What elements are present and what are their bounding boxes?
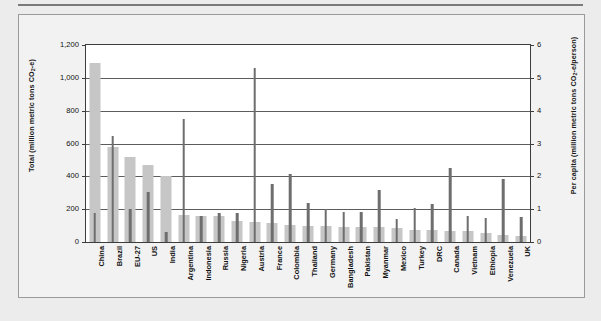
category-label: Nigeria	[239, 246, 248, 271]
category-label: UK	[523, 246, 532, 257]
right-axis-tick-mark	[530, 111, 534, 112]
top-divider-rule	[18, 4, 583, 6]
category-label: Mexico	[399, 246, 408, 271]
bar-group[interactable]	[122, 45, 140, 242]
bar-group[interactable]	[512, 45, 530, 242]
per-capita-bar[interactable]	[449, 168, 452, 242]
category-label: Colombia	[292, 246, 301, 280]
right-axis-tick-label: 5	[537, 73, 541, 82]
left-axis-tick-label: 400	[66, 171, 79, 180]
right-axis-tick-label: 3	[537, 139, 541, 148]
category-label: France	[275, 246, 284, 270]
left-axis-tick-label: 800	[66, 106, 79, 115]
bar-group[interactable]	[494, 45, 512, 242]
category-label: US	[150, 246, 159, 256]
right-axis-title: Per capita (million metric tons CO2-e/pe…	[569, 16, 578, 216]
category-label: Austria	[257, 246, 266, 271]
per-capita-bar[interactable]	[502, 179, 505, 242]
right-axis-title-suffix: -e/person)	[569, 37, 578, 73]
per-capita-bar[interactable]	[289, 174, 292, 242]
page-background: Total (million metric tons CO2-e) Per ca…	[0, 0, 601, 321]
per-capita-bar[interactable]	[147, 192, 150, 242]
category-label: Myanmar	[381, 246, 390, 278]
per-capita-bar[interactable]	[484, 218, 487, 242]
left-axis-tick-label: 600	[66, 139, 79, 148]
bar-group[interactable]	[406, 45, 424, 242]
right-axis-tick-label: 2	[537, 171, 541, 180]
category-label: EU-27	[133, 246, 142, 267]
category-label: Ethiopia	[488, 246, 497, 275]
bar-group[interactable]	[317, 45, 335, 242]
per-capita-bar[interactable]	[360, 212, 363, 242]
category-label: Pakistan	[363, 246, 372, 276]
right-axis-tick-label: 0	[537, 237, 541, 246]
left-axis-tick-mark	[82, 242, 86, 243]
per-capita-bar[interactable]	[165, 232, 168, 243]
bar-group[interactable]	[423, 45, 441, 242]
per-capita-bar[interactable]	[324, 209, 327, 242]
left-axis-title-suffix: -e)	[27, 59, 36, 68]
right-axis-tick-mark	[530, 176, 534, 177]
per-capita-bar[interactable]	[218, 213, 221, 242]
per-capita-bar[interactable]	[395, 219, 398, 242]
category-label: Germany	[328, 246, 337, 278]
right-axis-title-text: Per capita (million metric tons CO	[569, 76, 578, 195]
right-axis-title-subscript: 2	[572, 72, 578, 75]
per-capita-bar[interactable]	[378, 190, 381, 242]
bar-group[interactable]	[299, 45, 317, 242]
per-capita-bar[interactable]	[111, 136, 114, 242]
bar-group[interactable]	[441, 45, 459, 242]
left-axis-tick-label: 0	[75, 237, 79, 246]
per-capita-bar[interactable]	[467, 216, 470, 242]
per-capita-bar[interactable]	[253, 68, 256, 242]
bar-group[interactable]	[477, 45, 495, 242]
category-label: China	[97, 246, 106, 267]
bar-group[interactable]	[175, 45, 193, 242]
bar-group[interactable]	[139, 45, 157, 242]
bar-group[interactable]	[228, 45, 246, 242]
right-axis-tick-mark	[530, 242, 534, 243]
bar-group[interactable]	[459, 45, 477, 242]
category-label: Bangladesh	[346, 246, 355, 288]
bar-group[interactable]	[264, 45, 282, 242]
bar-group[interactable]	[281, 45, 299, 242]
per-capita-bar[interactable]	[413, 208, 416, 242]
bar-group[interactable]	[104, 45, 122, 242]
category-label: Venezuela	[506, 246, 515, 282]
bar-group[interactable]	[210, 45, 228, 242]
per-capita-bar[interactable]	[94, 213, 97, 242]
per-capita-bar[interactable]	[431, 204, 434, 242]
per-capita-bar[interactable]	[271, 184, 274, 242]
bar-group[interactable]	[157, 45, 175, 242]
bar-group[interactable]	[352, 45, 370, 242]
left-axis-tick-label: 1,200	[60, 40, 79, 49]
bar-group[interactable]	[193, 45, 211, 242]
category-label: Turkey	[417, 246, 426, 270]
left-axis-tick-label: 1,000	[60, 73, 79, 82]
category-label: Canada	[452, 246, 461, 273]
category-label: Russia	[221, 246, 230, 270]
category-label: India	[168, 246, 177, 263]
bar-group[interactable]	[388, 45, 406, 242]
right-axis-tick-label: 1	[537, 204, 541, 213]
bar-group[interactable]	[335, 45, 353, 242]
per-capita-bar[interactable]	[307, 203, 310, 242]
per-capita-bar[interactable]	[129, 209, 132, 242]
category-label: Indonesia	[204, 246, 213, 281]
per-capita-bar[interactable]	[236, 213, 239, 242]
per-capita-bar[interactable]	[342, 212, 345, 242]
right-axis-tick-mark	[530, 45, 534, 46]
left-axis-title: Total (million metric tons CO2-e)	[27, 26, 36, 206]
per-capita-bar[interactable]	[200, 216, 203, 242]
bar-group[interactable]	[86, 45, 104, 242]
left-axis-title-subscript: 2	[30, 68, 36, 71]
category-label: Argentina	[186, 246, 195, 281]
per-capita-bar[interactable]	[520, 217, 523, 242]
category-label: Vietnam	[470, 246, 479, 275]
right-axis-tick-label: 4	[537, 106, 541, 115]
per-capita-bar[interactable]	[182, 119, 185, 242]
bar-group[interactable]	[370, 45, 388, 242]
category-label: Thailand	[310, 246, 319, 276]
bar-group[interactable]	[246, 45, 264, 242]
right-axis-tick-label: 6	[537, 40, 541, 49]
